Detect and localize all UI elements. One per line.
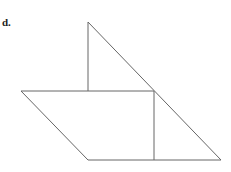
diagram-figure: d. xyxy=(0,0,231,172)
left-slant-edge xyxy=(21,91,88,160)
geometric-shapes xyxy=(0,0,231,172)
